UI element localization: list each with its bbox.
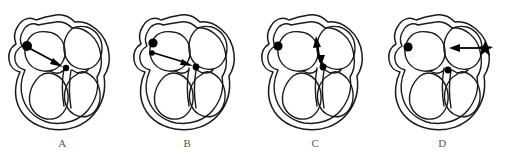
panel-label-b: B <box>125 136 250 150</box>
ectopic-focus-dot <box>149 50 155 56</box>
left-atrium-chamber <box>64 26 102 69</box>
av-node-dot <box>193 64 200 71</box>
left-atrium-chamber <box>189 26 227 69</box>
conduction-arrow-head <box>180 59 193 66</box>
conduction-markers-d <box>403 41 493 73</box>
sa-node-dot <box>148 38 157 47</box>
panel-a: A <box>0 0 125 160</box>
septum-left-border <box>70 70 72 108</box>
accessory-conduction-arrow-head <box>449 44 460 52</box>
right-atrium-chamber <box>405 32 445 72</box>
left-atrium-chamber <box>317 26 355 69</box>
interventricular-septum <box>63 68 65 106</box>
conduction-markers-c <box>273 36 326 70</box>
figure-container: A <box>0 0 505 160</box>
sa-node-dot <box>273 41 282 50</box>
heart-diagram-b <box>125 0 250 138</box>
interventricular-septum <box>316 68 318 106</box>
heart-diagram-c <box>253 0 378 138</box>
septum-left-border <box>450 70 452 108</box>
panel-b: B <box>125 0 250 160</box>
retrograde-arrow-head-up <box>313 36 321 48</box>
av-node-dot <box>445 67 452 74</box>
panel-label-a: A <box>0 136 125 150</box>
heart-diagram-d <box>380 0 505 138</box>
av-node-dot <box>63 65 69 71</box>
right-atrium-chamber <box>278 32 318 72</box>
panel-d: D <box>380 0 505 160</box>
panel-c: C <box>253 0 378 160</box>
interventricular-septum <box>188 68 190 106</box>
heart-diagram-a <box>0 0 125 138</box>
septum-left-border <box>195 70 197 108</box>
interventricular-septum <box>443 68 445 106</box>
sa-node-dot <box>403 42 412 51</box>
septum-left-border <box>323 70 325 108</box>
conduction-markers-a <box>22 41 69 71</box>
heart-chambers-d <box>405 26 482 119</box>
heart-chambers-a <box>25 26 102 119</box>
panel-label-d: D <box>380 136 505 150</box>
panel-label-c: C <box>253 136 378 150</box>
heart-chambers-b <box>150 26 227 119</box>
